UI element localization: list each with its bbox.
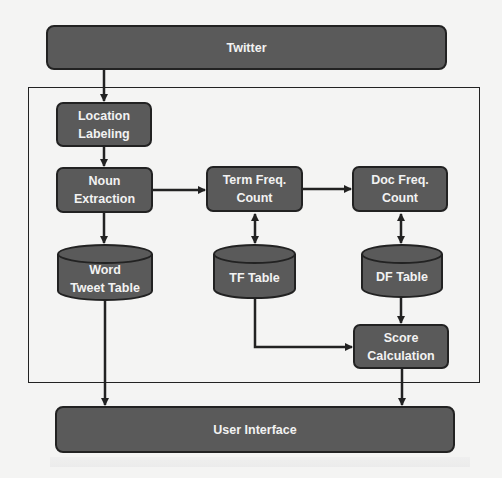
node-term-freq-count-label: Term Freq. Count [223, 171, 287, 207]
node-score-calculation: Score Calculation [353, 324, 449, 369]
node-doc-freq-count-label: Doc Freq. Count [371, 171, 429, 207]
node-noun-extraction: Noun Extraction [56, 167, 153, 213]
node-doc-freq-count: Doc Freq. Count [352, 166, 448, 212]
node-twitter-label: Twitter [226, 39, 266, 57]
node-location-labeling: Location Labeling [56, 102, 152, 147]
node-user-interface: User Interface [55, 406, 455, 453]
node-twitter: Twitter [46, 25, 447, 70]
edge-tftable-score [255, 298, 352, 347]
node-score-calculation-label: Score Calculation [367, 329, 434, 365]
node-user-interface-label: User Interface [213, 421, 296, 439]
node-df-table-label: DF Table [361, 268, 443, 286]
node-term-freq-count: Term Freq. Count [206, 166, 303, 212]
page-bleed-through [50, 457, 470, 467]
node-df-table: DF Table [361, 244, 443, 298]
node-noun-extraction-label: Noun Extraction [74, 172, 135, 208]
node-word-tweet-table-label: Word Tweet Table [57, 261, 153, 297]
node-location-labeling-label: Location Labeling [78, 107, 130, 143]
node-tf-table: TF Table [213, 244, 296, 299]
node-tf-table-label: TF Table [213, 269, 296, 287]
node-word-tweet-table: Word Tweet Table [57, 244, 153, 301]
